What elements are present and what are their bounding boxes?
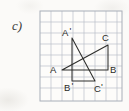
grid-background — [40, 11, 122, 101]
vertex-label-a: A — [50, 64, 57, 75]
vertex-label-a-prime-letter: A — [62, 27, 69, 38]
vertex-label-c-prime-letter: C — [94, 83, 101, 94]
vertex-label-b-prime-mark: ' — [72, 80, 74, 91]
figure-screenshot: c) — [0, 0, 129, 111]
vertex-label-b: B — [110, 64, 116, 75]
exercise-item-label: c) — [12, 19, 22, 32]
vertex-label-c-prime-mark: ' — [101, 81, 103, 92]
geometry-figure: A B C A ' B ' C ' — [39, 10, 124, 102]
vertex-label-c: C — [102, 32, 109, 43]
vertex-label-b-prime-letter: B — [64, 82, 70, 93]
vertex-label-a-prime-mark: ' — [70, 25, 72, 36]
